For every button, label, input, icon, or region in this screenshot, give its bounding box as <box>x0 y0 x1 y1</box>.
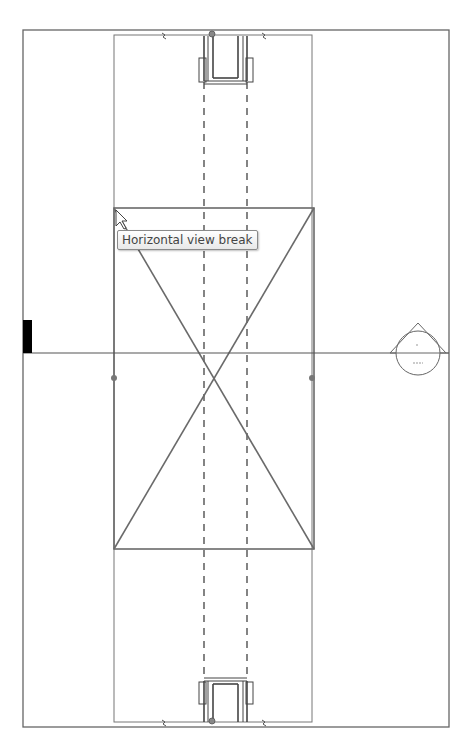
grip-left[interactable] <box>111 375 117 381</box>
grip-top[interactable] <box>209 31 215 37</box>
level-head-icon[interactable] <box>390 323 449 375</box>
bottom-element <box>199 678 253 722</box>
crop-box[interactable] <box>114 208 314 549</box>
cursor-icon <box>116 210 127 229</box>
grip-right[interactable] <box>309 375 315 381</box>
top-element <box>199 36 253 84</box>
tooltip-horizontal-view-break: Horizontal view break <box>117 230 258 250</box>
outer-frame <box>23 30 449 727</box>
view-boundary <box>114 35 312 722</box>
drawing-canvas[interactable] <box>0 0 472 752</box>
grip-bottom[interactable] <box>209 718 215 724</box>
level-marker-black[interactable] <box>23 320 32 353</box>
